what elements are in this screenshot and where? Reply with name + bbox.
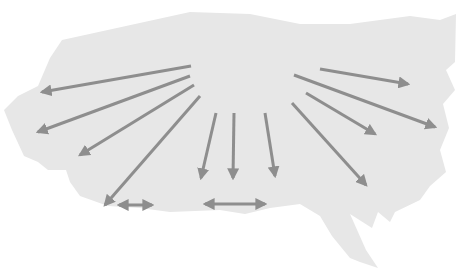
map-region-shape — [4, 12, 456, 268]
diagram-canvas — [0, 0, 459, 275]
diagram-svg — [0, 0, 459, 275]
arrow-south-2 — [233, 113, 234, 178]
